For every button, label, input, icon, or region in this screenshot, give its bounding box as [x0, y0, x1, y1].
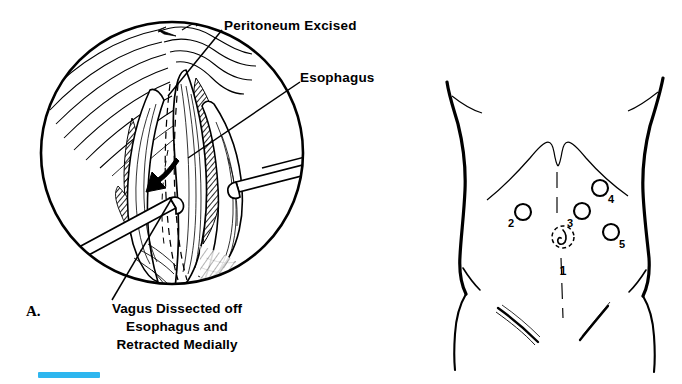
callout-label-peritoneum: Peritoneum Excised [224, 18, 357, 35]
port-number-2: 2 [508, 217, 514, 229]
port-number-3: 3 [567, 217, 573, 229]
port-number-4: 4 [608, 193, 615, 205]
panel-letter-a: A. [26, 303, 41, 320]
scale-bar [38, 372, 100, 378]
caption-line-3: Retracted Medially [62, 336, 292, 354]
panel-b-port-placement: 1 2 3 4 5 B. [430, 0, 682, 384]
port-site-2[interactable]: 2 [508, 204, 531, 229]
operative-field-contents [30, 10, 333, 300]
port-site-1-umbilicus[interactable]: 1 [552, 226, 574, 278]
port-number-5: 5 [619, 238, 625, 250]
torso-outline [447, 78, 663, 372]
panel-a-operative-view: Peritoneum Excised Esophagus Vagus Disse… [0, 0, 430, 384]
port-number-1: 1 [560, 264, 567, 278]
port-site-3[interactable]: 3 [567, 203, 590, 229]
surgical-figure: Peritoneum Excised Esophagus Vagus Disse… [0, 0, 682, 384]
caption-line-1: Vagus Dissected off [62, 300, 292, 318]
caption-line-2: Esophagus and [62, 318, 292, 336]
panel-a-caption: Vagus Dissected off Esophagus and Retrac… [62, 300, 292, 353]
flank-shading [463, 268, 646, 292]
callout-label-esophagus: Esophagus [300, 70, 375, 87]
port-site-5[interactable]: 5 [603, 224, 625, 250]
inguinal-creases [496, 302, 610, 345]
panel-b-artwork: 1 2 3 4 5 [430, 0, 682, 384]
